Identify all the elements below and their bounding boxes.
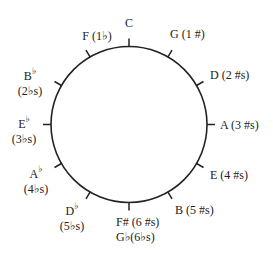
key-signature-count: (2 #s) [219,68,250,82]
key-note: B [24,69,32,83]
key-label: A (3 #s) [220,118,259,132]
key-note: D [210,68,219,82]
key-note: D [66,204,75,218]
key-label: G (1 #) [170,27,205,41]
tick-mark [197,82,204,86]
key-signature-line: (5♭s) [60,219,84,233]
flat-accidental: ♭ [74,201,78,211]
key-signature-count: (6 #s) [129,215,160,229]
key-note: B [175,203,183,217]
key-signature-count: (4 #s) [217,168,248,182]
key-signature-count: (1 #) [179,27,205,41]
tick-mark [168,50,172,57]
key-note: G [170,27,179,41]
tick-mark [55,164,62,168]
key-label: F# (6 #s) [116,215,159,229]
key-note: A [30,167,39,181]
key-label: B (5 #s) [175,203,214,217]
tick-mark [168,192,172,199]
key-signature-count: (3 #s) [228,118,259,132]
key-label: D♭ [66,201,79,218]
flat-accidental: ♭ [38,164,42,174]
key-label: D (2 #s) [210,68,249,82]
flat-accidental: ♭ [32,66,36,76]
key-label: C [125,16,133,30]
tick-mark [86,50,90,57]
tick-mark [197,164,204,168]
key-label: A♭ [30,164,43,181]
circle-of-fifths-diagram: CG (1 #)D (2 #s)A (3 #s)E (4 #s)B (5 #s)… [0,0,273,254]
tick-mark [55,82,62,86]
tick-mark [86,192,90,199]
key-label: F (1♭) [82,29,111,43]
key-signature-line: (2♭s) [18,84,42,98]
key-signature-line: (3♭s) [12,132,36,146]
key-signature-line: G♭(6♭s) [116,230,155,244]
key-signature-count: (5 #s) [183,203,214,217]
key-signature-line: (4♭s) [24,182,48,196]
key-note: F# [116,215,129,229]
key-note: C [125,16,133,30]
key-label: E (4 #s) [210,168,248,182]
key-note: E [210,168,217,182]
key-label: B♭ [24,66,36,83]
key-signature-count: (1♭) [89,29,112,43]
key-label: E♭ [18,114,30,131]
key-note: E [18,117,25,131]
circle-outline [51,47,207,203]
flat-accidental: ♭ [26,114,30,124]
